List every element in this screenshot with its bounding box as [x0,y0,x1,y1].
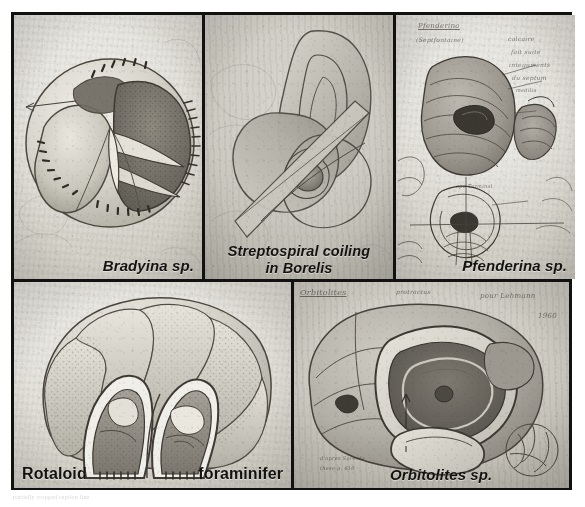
handwritten-note-integuments: integuments [509,61,550,68]
panel-row-top: Bradyina sp. [14,15,569,279]
panel-label-borelis-line2: in Borelis [205,261,393,276]
figure-plate: Bradyina sp. [11,12,572,490]
panel-row-bottom: Rotaloid foraminifer [14,282,569,488]
figure-footnote: partially cropped caption line [13,494,573,500]
panel-rotaloid[interactable]: Rotaloid foraminifer [14,282,291,488]
paper-grain [14,15,202,279]
paper-grain [14,282,291,488]
handwritten-note-author: (Septfontaine) [416,36,464,43]
handwritten-note-faitsuite: fait suite [511,48,541,55]
panel-pfenderina[interactable]: Pfenderina (Septfontaine) calcaire fait … [396,15,575,279]
paper-grain [205,15,393,279]
handwritten-note-protractus: protractus [396,288,431,295]
handwritten-note-source: d'apres Sorento [320,455,365,461]
handwritten-note-orbitolites: Orbitolites [300,288,347,297]
panel-label-orbitolites: Orbitolites sp. [390,467,492,483]
handwritten-note-opaterminal: opa-Terminal [456,183,493,189]
panel-orbitolites[interactable]: Orbitolites protractus pour Lehmann 1960… [294,282,569,488]
panel-label-rotaloid: Rotaloid [22,466,87,483]
handwritten-note-pourlehmann: pour Lehmann [480,292,536,300]
handwritten-note-page: these p. 610 [320,465,355,471]
panel-label-foraminifer: foraminifer [198,466,283,483]
panel-bradyina[interactable]: Bradyina sp. [14,15,202,279]
panel-label-pfenderina: Pfenderina sp. [462,258,567,274]
panel-label-borelis-line1: Streptospiral coiling [205,244,393,259]
handwritten-note-calcaire: calcaire [508,35,535,42]
panel-label-bradyina: Bradyina sp. [103,258,194,274]
handwritten-note-year: 1960 [538,312,557,320]
handwritten-note-duseptum: du septum [512,74,547,81]
panel-borelis[interactable]: Streptospiral coiling in Borelis [205,15,393,279]
handwritten-note-species: Pfenderina [418,22,460,30]
handwritten-note-extra1: medilia [516,87,537,93]
paper-grain [396,15,575,279]
